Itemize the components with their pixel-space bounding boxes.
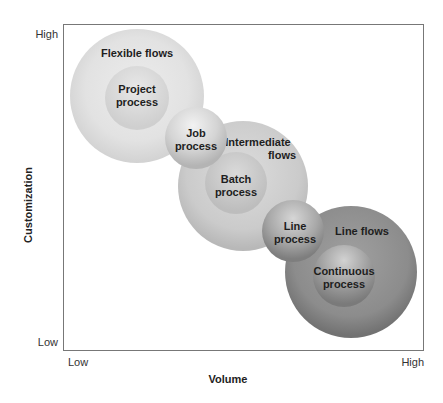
intermediate-flows-label-2: flows [268,149,296,161]
continuous-process-label-2: process [323,278,365,290]
continuous-process-label-1: Continuous [313,265,374,277]
project-process-label-1: Project [118,83,156,95]
x-low-label: Low [68,356,88,368]
x-high-label: High [401,356,424,368]
project-process-label-2: process [116,96,158,108]
batch-process-label-2: process [215,186,257,198]
line-process-label-1: Line [284,220,307,232]
line-process-bubble: Line process [262,200,324,262]
job-process-label-1: Job [186,127,206,139]
y-axis-title: Customization [22,167,34,243]
line-process-label-2: process [274,233,316,245]
batch-process-label-1: Batch [221,173,252,185]
flexible-flows-label: Flexible flows [101,47,173,59]
job-process-bubble: Job process [165,107,227,169]
intermediate-flows-label-1: Intermediate [225,136,290,148]
x-axis-title: Volume [209,373,248,385]
y-low-label: Low [38,336,58,348]
line-flows-label: Line flows [335,225,389,237]
process-flow-diagram: Flexible flows Project process Intermedi… [0,0,443,403]
job-process-label-2: process [175,140,217,152]
y-high-label: High [35,28,58,40]
